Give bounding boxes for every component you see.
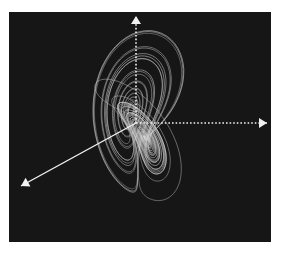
z-axis-arrow-icon	[131, 16, 141, 24]
y-axis-line	[21, 123, 136, 186]
lorenz-attractor-plot	[9, 12, 271, 242]
attractor-trajectory	[93, 31, 184, 201]
x-axis-arrow-icon	[259, 118, 267, 128]
attractor-figure-panel	[9, 12, 271, 242]
